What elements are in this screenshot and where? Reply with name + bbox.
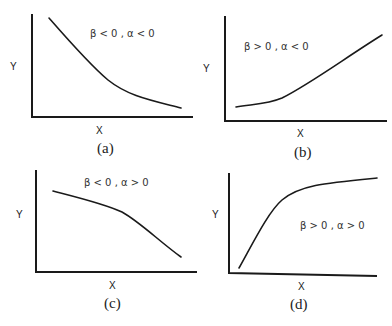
panel-a-caption: (a)	[97, 140, 114, 157]
panel-a: β < 0 , α < 0 Y X (a)	[10, 14, 193, 157]
panel-c-condition: β < 0 , α > 0	[84, 177, 149, 188]
panel-d-caption: (d)	[290, 296, 308, 313]
panel-d-x-label: X	[298, 281, 305, 292]
panel-b-condition: β > 0 , α < 0	[244, 41, 309, 52]
panel-c-y-label: Y	[16, 209, 23, 220]
panel-c-x-label: X	[109, 280, 116, 291]
panel-c-caption: (c)	[104, 295, 121, 312]
panel-a-x-label: X	[96, 125, 103, 136]
panel-b: β > 0 , α < 0 Y X (b)	[203, 16, 387, 161]
panel-d: β > 0 , α > 0 Y X (d)	[212, 173, 377, 313]
panel-b-y-label: Y	[203, 63, 210, 74]
panel-c-curve	[53, 191, 181, 257]
panel-d-y-label: Y	[212, 209, 219, 220]
panel-b-caption: (b)	[294, 144, 312, 161]
panel-a-condition: β < 0 , α < 0	[90, 28, 155, 39]
panel-c: β < 0 , α > 0 Y X (c)	[16, 170, 197, 312]
panel-b-x-label: X	[297, 128, 304, 139]
figure: β < 0 , α < 0 Y X (a) β > 0 , α < 0 Y X …	[0, 0, 392, 326]
panel-a-y-label: Y	[10, 61, 17, 72]
panel-d-condition: β > 0 , α > 0	[300, 220, 365, 231]
